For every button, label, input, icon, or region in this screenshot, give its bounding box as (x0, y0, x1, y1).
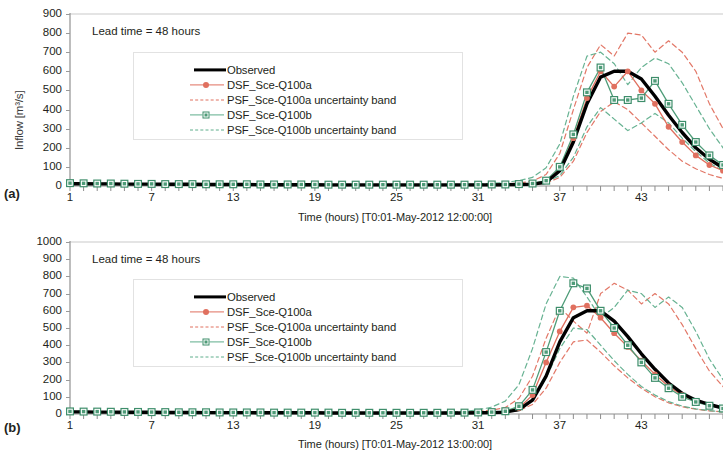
legend-key-icon (186, 93, 226, 107)
dsf-q100b-marker-fill (340, 183, 343, 186)
dsf-q100b-marker-fill (245, 411, 248, 414)
legend-label: PSF_Sce-Q100b uncertainty band (227, 351, 396, 363)
dsf-q100b-marker-fill (490, 410, 493, 413)
legend-label: DSF_Sce-Q100a (227, 79, 312, 91)
dsf-q100b-marker-fill (123, 182, 126, 185)
legend-key-icon (186, 335, 226, 349)
legend-item: PSF_Sce-Q100b uncertainty band (186, 350, 396, 365)
dsf-q100b-marker-fill (572, 133, 575, 136)
legend-item: DSF_Sce-Q100b (186, 335, 312, 350)
dsf-q100b-marker-fill (436, 183, 439, 186)
legend-b: ObservedDSF_Sce-Q100aPSF_Sce-Q100a uncer… (133, 279, 463, 367)
dsf-q100b-marker-fill (368, 411, 371, 414)
legend-a: ObservedDSF_Sce-Q100aPSF_Sce-Q100a uncer… (133, 52, 463, 140)
dsf-q100a-marker (638, 88, 644, 94)
dsf-q100b-marker-fill (667, 387, 670, 390)
legend-label: DSF_Sce-Q100a (227, 306, 312, 318)
dsf-q100b-marker-fill (449, 411, 452, 414)
chart-panel-a: (a) Inflow [m³/s] 0100200300400500600700… (0, 0, 723, 230)
dsf-q100b-marker-fill (96, 182, 99, 185)
dsf-q100a-marker (706, 162, 712, 168)
legend-label: PSF_Sce-Q100a uncertainty band (227, 94, 396, 106)
dsf-q100b-marker-fill (694, 140, 697, 143)
dsf-q100b-marker-fill (517, 182, 520, 185)
dsf-q100b-marker-fill (463, 411, 466, 414)
dsf-q100b-marker-fill (300, 183, 303, 186)
dsf-q100b-marker-fill (504, 410, 507, 413)
dsf-q100b-marker-fill (708, 154, 711, 157)
dsf-q100b-marker-fill (272, 411, 275, 414)
dsf-q100b-marker-fill (245, 183, 248, 186)
dsf-q100b-marker-fill (585, 287, 588, 290)
dsf-q100b-marker-fill (340, 411, 343, 414)
dsf-q100b-marker-fill (408, 411, 411, 414)
legend-item: PSF_Sce-Q100a uncertainty band (186, 319, 396, 334)
dsf-q100a-marker (611, 84, 617, 90)
dsf-q100b-marker-fill (313, 183, 316, 186)
dsf-q100b-marker-fill (640, 361, 643, 364)
dsf-q100b-marker-fill (381, 411, 384, 414)
dsf-q100b-marker-fill (191, 411, 194, 414)
dsf-q100a-marker (666, 124, 672, 130)
dsf-q100b-marker-fill (232, 183, 235, 186)
dsf-q100a-marker (693, 153, 699, 159)
dsf-q100b-marker-fill (300, 411, 303, 414)
legend-item: DSF_Sce-Q100b (186, 108, 312, 123)
dsf-q100b-marker-fill (82, 410, 85, 413)
legend-key-icon (186, 305, 226, 319)
dsf-q100b-marker-fill (422, 183, 425, 186)
dsf-q100b-marker-fill (218, 183, 221, 186)
dsf-q100b-marker-fill (286, 183, 289, 186)
dsf-q100b-marker-fill (599, 309, 602, 312)
dsf-q100a-marker (543, 360, 549, 366)
dsf-q100a-marker (625, 68, 631, 74)
dsf-q100a-marker (598, 315, 604, 321)
dsf-q100b-marker-fill (327, 183, 330, 186)
dsf-q100a-marker (584, 303, 590, 309)
dsf-q100b-marker-fill (164, 410, 167, 413)
dsf-q100b-marker-fill (599, 66, 602, 69)
legend-key-icon (186, 123, 226, 137)
dsf-q100b-marker-fill (490, 183, 493, 186)
dsf-q100b-marker-fill (408, 183, 411, 186)
dsf-q100b-marker-fill (531, 388, 534, 391)
legend-item: DSF_Sce-Q100a (186, 77, 312, 92)
legend-item: DSF_Sce-Q100a (186, 304, 312, 319)
dsf-q100b-marker-fill (517, 405, 520, 408)
dsf-q100b-marker-fill (354, 183, 357, 186)
dsf-q100b-marker-fill (653, 79, 656, 82)
legend-item: Observed (186, 62, 275, 77)
dsf-q100a-marker (570, 304, 576, 310)
dsf-q100b-marker-fill (191, 182, 194, 185)
legend-item: PSF_Sce-Q100a uncertainty band (186, 92, 396, 107)
dsf-q100b-marker-fill (150, 182, 153, 185)
dsf-q100b-marker-fill (504, 183, 507, 186)
legend-key-icon (186, 78, 226, 92)
dsf-q100b-marker-fill (612, 98, 615, 101)
dsf-q100b-marker-fill (68, 181, 71, 184)
legend-key-icon (186, 63, 226, 77)
dsf-q100b-marker-fill (449, 183, 452, 186)
legend-item: Observed (186, 289, 275, 304)
dsf-q100b-marker-fill (259, 411, 262, 414)
dsf-q100b-marker-fill (136, 182, 139, 185)
dsf-q100a-marker (679, 139, 685, 145)
dsf-q100b-marker-fill (626, 98, 629, 101)
dsf-q100b-marker-fill (395, 411, 398, 414)
chart-panel-b: (b) Inflow [m³/s] 0100200300400500600700… (0, 229, 723, 459)
dsf-q100b-marker-fill (82, 182, 85, 185)
dsf-q100b-marker-fill (558, 165, 561, 168)
dsf-q100b-marker-fill (327, 411, 330, 414)
dsf-q100b-marker-fill (544, 179, 547, 182)
dsf-q100b-marker-fill (150, 410, 153, 413)
dsf-q100b-marker-fill (218, 411, 221, 414)
dsf-q100b-marker-fill (368, 183, 371, 186)
dsf-q100b-marker-fill (272, 183, 275, 186)
legend-item: PSF_Sce-Q100b uncertainty band (186, 123, 396, 138)
dsf-q100b-marker-fill (123, 410, 126, 413)
dsf-q100a-marker (557, 329, 563, 335)
dsf-q100b-marker-fill (381, 183, 384, 186)
dsf-q100b-marker-fill (558, 309, 561, 312)
dsf-q100b-marker-fill (177, 182, 180, 185)
dsf-q100b-marker-fill (164, 182, 167, 185)
